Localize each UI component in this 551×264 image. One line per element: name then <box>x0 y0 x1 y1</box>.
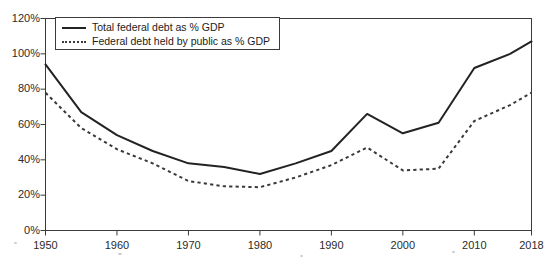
y-axis-ticks <box>41 19 46 231</box>
x-tick-label: 1950 <box>21 239 71 251</box>
x-tick-label: 1990 <box>306 239 356 251</box>
series-line-federal-debt-held-by-public <box>46 93 532 188</box>
x-axis-ticks <box>46 231 532 236</box>
debt-gdp-line-chart: 0%20%40%60%80%100%120% 19501960197019801… <box>0 0 551 264</box>
x-tick-label: 2000 <box>378 239 428 251</box>
x-tick-label: 1980 <box>235 239 285 251</box>
chart-legend: Total federal debt as % GDP Federal debt… <box>55 17 280 50</box>
legend-swatch-dotted-line-icon <box>62 37 86 47</box>
scan-speck <box>300 255 303 257</box>
y-tick-label: 80% <box>0 82 40 94</box>
scan-speck <box>14 242 17 244</box>
legend-swatch-solid-line-icon <box>62 23 86 33</box>
series-line-total-federal-debt <box>46 41 532 174</box>
legend-item-total-federal-debt: Total federal debt as % GDP <box>62 21 273 34</box>
y-tick-label: 20% <box>0 188 40 200</box>
x-tick-label: 2018 <box>507 239 551 251</box>
scan-speck <box>452 251 455 253</box>
legend-label-total-federal-debt: Total federal debt as % GDP <box>92 22 225 33</box>
x-tick-label: 2010 <box>449 239 499 251</box>
y-tick-label: 0% <box>0 224 40 236</box>
legend-label-federal-debt-held-by-public: Federal debt held by public as % GDP <box>92 36 270 47</box>
y-tick-label: 100% <box>0 47 40 59</box>
legend-item-federal-debt-held-by-public: Federal debt held by public as % GDP <box>62 35 273 48</box>
y-tick-label: 40% <box>0 153 40 165</box>
y-tick-label: 120% <box>0 12 40 24</box>
x-tick-label: 1960 <box>92 239 142 251</box>
scan-speck <box>118 253 122 255</box>
plot-border <box>46 19 532 231</box>
y-tick-label: 60% <box>0 118 40 130</box>
x-tick-label: 1970 <box>163 239 213 251</box>
